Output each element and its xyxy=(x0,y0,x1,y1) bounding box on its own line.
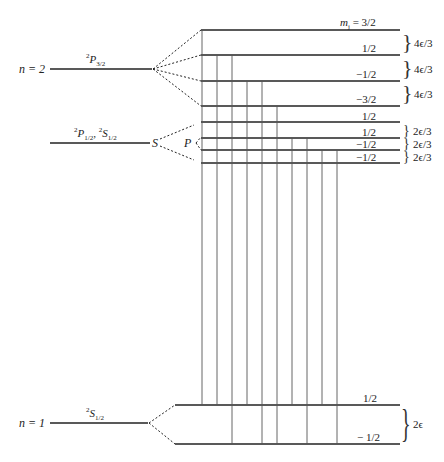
s12-ground-splitting-fan xyxy=(149,405,175,444)
branch-p-label: P xyxy=(184,137,191,149)
brace-middle-2: } xyxy=(403,150,410,164)
brace-upper-0: } xyxy=(402,31,413,53)
mj-upper-2: −1/2 xyxy=(356,69,376,80)
mj-middle-1: 1/2 xyxy=(362,127,376,138)
spacing-middle-2: 2ϵ/3 xyxy=(413,152,432,163)
mj-header: mj = 3/2 xyxy=(340,17,376,31)
term-p12-sub: 1/2 xyxy=(84,134,93,142)
mj-ground-1: − 1/2 xyxy=(357,432,380,443)
term-ground-sub: 1/2 xyxy=(95,414,104,422)
term-p12-s12-label: 2P1/2, 2S1/2 xyxy=(74,127,117,142)
mj-middle-2: −1/2 xyxy=(356,139,376,150)
transition-lines xyxy=(202,30,337,444)
mj-eq: = 3/2 xyxy=(350,16,376,28)
mj-m: m xyxy=(340,16,348,28)
branch-s-label: S xyxy=(152,137,158,149)
p32-splitting-fan xyxy=(153,30,201,106)
mj-upper-3: −3/2 xyxy=(356,94,376,105)
spacing-ground: 2ϵ xyxy=(413,419,423,430)
n1-label: n = 1 xyxy=(19,417,45,429)
spacing-upper-1: 4ϵ/3 xyxy=(414,64,433,75)
mj-ground-0: 1/2 xyxy=(363,393,377,404)
brace-ground: } xyxy=(401,404,411,444)
term-p32-label: 2P3/2 xyxy=(86,53,105,68)
n2-label: n = 2 xyxy=(19,63,45,75)
spacing-middle-1: 2ϵ/3 xyxy=(413,139,432,150)
energy-level-diagram xyxy=(0,0,444,462)
p-splitting-fan xyxy=(196,137,201,150)
spacing-middle-0: 2ϵ/3 xyxy=(413,126,432,137)
mj-middle-0: 1/2 xyxy=(362,111,376,122)
mj-upper-1: 1/2 xyxy=(362,43,376,54)
mj-middle-3: −1/2 xyxy=(356,152,376,163)
spacing-upper-2: 4ϵ/3 xyxy=(414,89,433,100)
term-s12-sub: 1/2 xyxy=(108,134,117,142)
term-p32-sub: 3/2 xyxy=(96,60,105,68)
term-ground-s12-label: 2S1/2 xyxy=(86,407,104,422)
brace-upper-2: } xyxy=(402,82,413,104)
spacing-upper-0: 4ϵ/3 xyxy=(414,38,433,49)
brace-upper-1: } xyxy=(402,57,413,79)
